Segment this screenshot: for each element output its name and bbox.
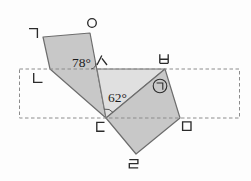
vertex-label-nieun-icon [34,73,43,82]
vertex-label-giyeok-icon [29,29,37,38]
vertex-label-bieup-icon [160,54,168,63]
shaded-quadrilateral-left [43,33,106,118]
angle-label-78: 78° [72,55,91,70]
vertex-label-mieum-icon [183,122,191,131]
vertex-label-siot-icon [97,56,107,66]
geometry-diagram: 78° 62° [0,0,251,181]
angle-label-62: 62° [108,90,127,105]
vertex-label-digeut-icon [97,122,105,131]
vertex-label-rieul-icon [129,160,138,168]
vertex-label-ieung-icon [88,19,97,28]
diagram-canvas: 78° 62° [0,0,251,181]
